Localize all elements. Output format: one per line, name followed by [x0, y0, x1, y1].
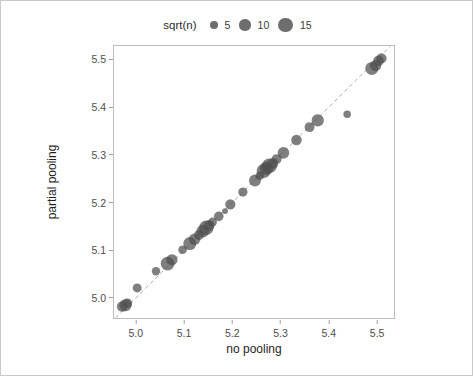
- size-legend: sqrt(n) 51015: [1, 11, 473, 39]
- chart-figure: sqrt(n) 51015 partial pooling 5.05.15.25…: [0, 0, 473, 376]
- x-tick-label: 5.3: [273, 327, 288, 339]
- x-tick-5.1: 5.1: [177, 320, 192, 339]
- scatter-point: [214, 212, 224, 222]
- y-axis-ticks: 5.05.15.25.35.45.5: [73, 45, 113, 319]
- y-tick-5.1: 5.1: [91, 244, 113, 256]
- y-tick-5.5: 5.5: [91, 53, 113, 65]
- y-tick-label: 5.3: [91, 149, 106, 161]
- x-tick-5.2: 5.2: [225, 320, 240, 339]
- y-tick-5.2: 5.2: [91, 197, 113, 209]
- scatter-point: [225, 199, 235, 209]
- legend-key-label: 10: [258, 19, 270, 31]
- legend-key-15: 15: [278, 18, 311, 33]
- legend-key-label: 15: [300, 19, 312, 31]
- scatter-point: [222, 208, 228, 214]
- x-tick-label: 5.1: [177, 327, 192, 339]
- plot-area: [114, 46, 394, 318]
- legend-marker-icon: [278, 18, 293, 33]
- y-tick-label: 5.2: [91, 197, 106, 209]
- scatter-point: [152, 267, 160, 275]
- legend-marker-icon: [210, 21, 218, 29]
- x-tick-label: 5.5: [370, 327, 385, 339]
- x-tick-5.4: 5.4: [322, 320, 337, 339]
- legend-key-label: 5: [225, 19, 231, 31]
- scatter-point: [133, 283, 142, 292]
- scatter-point: [312, 114, 324, 126]
- scatter-point: [123, 299, 132, 308]
- y-tick-5.3: 5.3: [91, 149, 113, 161]
- y-tick-label: 5.0: [91, 292, 106, 304]
- scatter-point: [278, 147, 290, 159]
- x-axis-ticks: 5.05.15.25.35.45.5: [113, 320, 395, 342]
- y-axis-label: partial pooling: [45, 45, 59, 319]
- x-tick-mark: [183, 320, 184, 324]
- x-tick-mark: [377, 320, 378, 324]
- legend-key-5: 5: [210, 19, 231, 31]
- legend-key-10: 10: [239, 19, 269, 31]
- x-tick-mark: [232, 320, 233, 324]
- y-tick-label: 5.4: [91, 101, 106, 113]
- x-tick-mark: [280, 320, 281, 324]
- plot-panel: [113, 45, 395, 319]
- scatter-point: [238, 187, 247, 196]
- legend-marker-icon: [239, 19, 250, 30]
- x-tick-5.0: 5.0: [128, 320, 143, 339]
- x-tick-label: 5.0: [128, 327, 143, 339]
- legend-key-list: 51015: [210, 18, 312, 33]
- y-tick-label: 5.1: [91, 244, 106, 256]
- x-tick-5.3: 5.3: [273, 320, 288, 339]
- legend-title: sqrt(n): [163, 19, 196, 31]
- x-tick-mark: [135, 320, 136, 324]
- scatter-point: [166, 254, 177, 265]
- y-tick-label: 5.5: [91, 53, 106, 65]
- x-tick-label: 5.2: [225, 327, 240, 339]
- y-tick-5.4: 5.4: [91, 101, 113, 113]
- scatter-point: [291, 135, 302, 146]
- x-axis-label: no pooling: [113, 342, 395, 356]
- y-tick-5.0: 5.0: [91, 292, 113, 304]
- x-tick-mark: [328, 320, 329, 324]
- scatter-point: [343, 110, 351, 118]
- x-tick-5.5: 5.5: [370, 320, 385, 339]
- scatter-point: [376, 53, 386, 63]
- scatter-plot-svg: [114, 46, 394, 318]
- x-tick-label: 5.4: [322, 327, 337, 339]
